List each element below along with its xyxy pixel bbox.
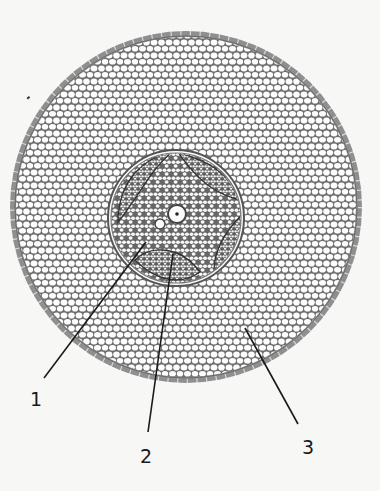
label-1: 1 <box>30 388 42 410</box>
root-cross-section-diagram <box>0 0 380 491</box>
label-2: 2 <box>140 445 152 467</box>
label-3: 3 <box>302 436 314 458</box>
